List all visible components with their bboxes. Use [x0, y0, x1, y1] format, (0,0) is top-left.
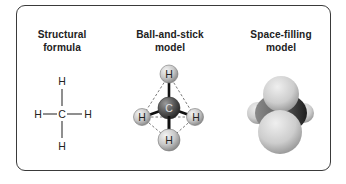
ball-hydrogen-left: H [138, 111, 146, 123]
hydrogen-top: H [58, 75, 66, 87]
carbon-center: C [58, 108, 66, 120]
ball-hydrogen-bottom: H [165, 134, 173, 146]
hydrogen-left: H [34, 108, 42, 120]
ball-hydrogen-top: H [165, 68, 173, 80]
ball-carbon: C [165, 102, 173, 114]
hydrogen-right: H [84, 108, 92, 120]
structural-formula: H C H H H [34, 75, 92, 152]
methane-illustrations: H C H H H H C H H H [0, 0, 346, 184]
ball-hydrogen-right: H [192, 111, 200, 123]
ball-and-stick-model: H C H H H [134, 65, 204, 151]
hydrogen-bottom: H [58, 140, 66, 152]
space-filling-model [247, 76, 314, 154]
